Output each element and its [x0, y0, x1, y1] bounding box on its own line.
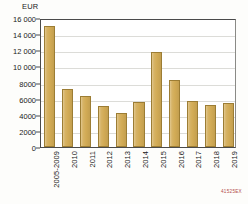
bar — [205, 105, 216, 147]
bar — [80, 96, 91, 147]
bars-container — [41, 20, 235, 147]
bar — [187, 101, 198, 147]
x-tick-label: 2010 — [70, 151, 79, 168]
y-tick-label: 4000 — [2, 111, 40, 120]
y-tick-label: 2000 — [2, 127, 40, 136]
y-tick-label: 12 000 — [2, 47, 40, 56]
y-tick-label: 14 000 — [2, 31, 40, 40]
x-tick-label: 2005-2009 — [52, 151, 61, 188]
bar — [169, 80, 180, 147]
x-tick-label: 2011 — [88, 151, 97, 168]
x-tick-label: 2012 — [105, 151, 114, 168]
bar — [116, 113, 127, 147]
bar — [44, 26, 55, 147]
x-axis-labels: 2005-20092010201120122013201420152016201… — [40, 148, 236, 200]
y-tick-label: 10 000 — [2, 63, 40, 72]
y-tick-label: 8000 — [2, 79, 40, 88]
bar — [151, 52, 162, 147]
footer-code: 41525EX — [221, 189, 242, 194]
plot-area — [40, 19, 236, 148]
bar-chart: EUR 0200040006000800010 00012 00014 0001… — [0, 0, 248, 204]
x-tick-label: 2013 — [123, 151, 132, 168]
x-tick-label: 2017 — [194, 151, 203, 168]
x-tick-label: 2015 — [159, 151, 168, 168]
y-tick-label: 6000 — [2, 95, 40, 104]
bar — [62, 89, 73, 147]
y-tick-label: 16 000 — [2, 15, 40, 24]
x-tick-label: 2019 — [230, 151, 239, 168]
x-tick-label: 2014 — [141, 151, 150, 168]
y-axis: 0200040006000800010 00012 00014 00016 00… — [0, 0, 40, 204]
x-tick-label: 2016 — [177, 151, 186, 168]
x-tick-label: 2018 — [212, 151, 221, 168]
bar — [223, 103, 234, 147]
bar — [98, 106, 109, 147]
y-tick-label: 0 — [2, 144, 40, 153]
bar — [133, 102, 144, 147]
